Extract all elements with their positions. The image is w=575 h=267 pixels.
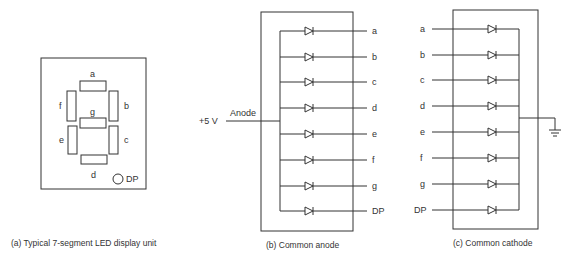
supply-label: +5 V — [199, 116, 218, 126]
diode-icon — [305, 182, 313, 190]
ground-icon — [549, 118, 561, 136]
anode-row-dp: DP — [280, 206, 385, 216]
anode-row-e: e — [280, 129, 377, 139]
segment-label-d: d — [91, 170, 96, 180]
output-label: DP — [372, 206, 385, 216]
diagram-canvas: a b c d e f g DP (a) Typical 7-segment L… — [0, 0, 575, 267]
output-label: b — [372, 52, 377, 62]
diode-icon — [305, 78, 313, 86]
diode-icon — [488, 76, 496, 84]
cathode-row-g: g — [420, 179, 519, 189]
input-label: a — [420, 24, 425, 34]
decimal-point-dot — [113, 174, 123, 184]
diode-icon — [488, 51, 496, 59]
segment-e — [68, 126, 77, 154]
output-label: c — [372, 77, 377, 87]
panel-b-common-anode: +5 V Anode abcdefgDP (b) Common anode — [199, 12, 385, 250]
diode-icon — [305, 207, 313, 215]
diode-icon — [488, 128, 496, 136]
anode-row-d: d — [280, 103, 377, 113]
panel-c-common-cathode: abcdefgDP (c) Common cathode — [414, 10, 561, 248]
input-label: d — [420, 101, 425, 111]
input-label: DP — [414, 205, 427, 215]
output-label: a — [372, 26, 377, 36]
anode-row-c: c — [280, 77, 377, 87]
input-label: b — [420, 50, 425, 60]
segment-f — [67, 91, 76, 121]
output-label: g — [372, 181, 377, 191]
output-label: f — [372, 155, 375, 165]
diode-icon — [488, 180, 496, 188]
cathode-row-d: d — [420, 101, 519, 111]
diode-icon — [305, 104, 313, 112]
segment-c — [109, 126, 118, 154]
cathode-row-e: e — [420, 127, 519, 137]
diode-icon — [488, 102, 496, 110]
diode-icon — [305, 53, 313, 61]
input-label: e — [420, 127, 425, 137]
input-label: g — [420, 179, 425, 189]
segment-d — [81, 155, 107, 164]
dp-label: DP — [126, 174, 139, 184]
diode-icon — [488, 206, 496, 214]
cathode-row-a: a — [420, 24, 519, 34]
cathode-row-dp: DP — [414, 205, 519, 215]
segment-label-f: f — [59, 101, 62, 111]
segment-label-b: b — [124, 101, 129, 111]
segment-label-g: g — [90, 107, 95, 117]
cathode-diode-rows: abcdefgDP — [414, 24, 519, 215]
diode-icon — [305, 27, 313, 35]
anode-row-a: a — [280, 26, 377, 36]
anode-label: Anode — [230, 108, 256, 118]
anode-diode-rows: abcdefgDP — [280, 26, 385, 216]
segment-g — [80, 118, 106, 128]
cathode-row-c: c — [420, 75, 519, 85]
panel-a-7segment-display: a b c d e f g DP (a) Typical 7-segment L… — [11, 58, 157, 248]
diode-icon — [305, 156, 313, 164]
output-label: e — [372, 129, 377, 139]
input-label: f — [420, 153, 423, 163]
cathode-row-b: b — [420, 50, 519, 60]
anode-row-g: g — [280, 181, 377, 191]
anode-row-f: f — [280, 155, 375, 165]
caption-c: (c) Common cathode — [453, 238, 533, 248]
output-label: d — [372, 103, 377, 113]
diode-icon — [488, 154, 496, 162]
segment-label-a: a — [90, 69, 95, 79]
segment-b — [109, 91, 118, 121]
diode-icon — [305, 130, 313, 138]
segment-label-e: e — [59, 135, 64, 145]
caption-b: (b) Common anode — [266, 240, 340, 250]
anode-row-b: b — [280, 52, 377, 62]
segment-label-c: c — [124, 135, 129, 145]
cathode-row-f: f — [420, 153, 519, 163]
caption-a: (a) Typical 7-segment LED display unit — [11, 238, 157, 248]
cathode-package-outline — [453, 10, 538, 229]
segment-a — [80, 81, 106, 91]
input-label: c — [420, 75, 425, 85]
diode-icon — [488, 25, 496, 33]
